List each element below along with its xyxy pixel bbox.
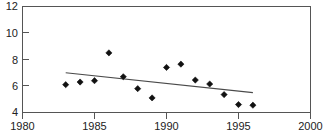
data-point-1984 xyxy=(77,79,83,85)
y-tick-label-10: 10 xyxy=(6,27,18,39)
data-markers-layer xyxy=(63,50,256,109)
data-point-1995 xyxy=(235,101,241,107)
y-axis-tick-labels: 12 10 8 6 4 xyxy=(6,0,18,118)
data-point-1990 xyxy=(163,64,169,70)
y-tick-label-8: 8 xyxy=(12,54,18,66)
x-axis-tick-labels: 1980 1985 1990 1995 2000 xyxy=(10,120,322,132)
y-tick-label-12: 12 xyxy=(6,0,18,12)
chart-container: 12 10 8 6 4 1980 1985 1990 1995 2000 xyxy=(0,0,326,134)
scatter-plot-svg: 12 10 8 6 4 1980 1985 1990 1995 2000 xyxy=(0,0,326,134)
y-axis-ticks xyxy=(23,7,29,113)
x-tick-label-1990: 1990 xyxy=(154,120,178,132)
data-point-1991 xyxy=(178,61,184,67)
x-axis-ticks xyxy=(23,113,311,119)
data-point-1992 xyxy=(192,77,198,83)
data-point-1988 xyxy=(135,86,141,92)
x-tick-label-1985: 1985 xyxy=(82,120,106,132)
x-tick-label-1980: 1980 xyxy=(10,120,34,132)
data-point-1996 xyxy=(250,102,256,108)
data-point-1986 xyxy=(106,50,112,56)
plot-frame xyxy=(22,6,311,113)
data-point-1993 xyxy=(207,81,213,87)
data-point-1994 xyxy=(221,92,227,98)
x-tick-label-2000: 2000 xyxy=(298,120,322,132)
data-point-1983 xyxy=(63,82,69,88)
y-tick-label-6: 6 xyxy=(12,80,18,92)
data-point-1985 xyxy=(91,78,97,84)
y-tick-label-4: 4 xyxy=(12,106,18,118)
data-point-1989 xyxy=(149,95,155,101)
x-tick-label-1995: 1995 xyxy=(226,120,250,132)
